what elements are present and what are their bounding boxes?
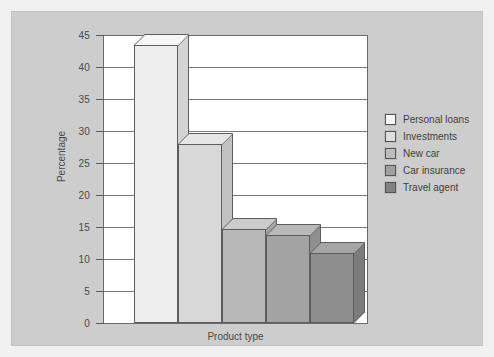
legend-swatch-icon	[385, 114, 396, 125]
legend-swatch-icon	[385, 182, 396, 193]
y-axis: 051015202530354045	[95, 35, 104, 325]
legend-item-label: Personal loans	[403, 114, 469, 125]
x-axis-title: Product type	[103, 331, 368, 342]
y-axis-tick-label: 0	[50, 318, 90, 329]
bar-front-face	[310, 253, 354, 323]
y-axis-tick	[96, 99, 104, 100]
y-axis-tick	[96, 195, 104, 196]
bar-front-face	[222, 229, 266, 323]
legend-item-label: Travel agent	[403, 182, 458, 193]
bar-front-face	[178, 144, 222, 323]
bar-personal-loans	[134, 34, 178, 323]
bar-travel-agent	[310, 242, 354, 323]
y-axis-tick	[96, 259, 104, 260]
y-axis-tick-label: 40	[50, 62, 90, 73]
y-axis-tick-label: 5	[50, 286, 90, 297]
bar-front-face	[134, 45, 178, 323]
y-axis-tick-label: 15	[50, 222, 90, 233]
y-axis-tick	[96, 291, 104, 292]
legend-item-label: Car insurance	[403, 165, 465, 176]
y-axis-tick	[96, 163, 104, 164]
chart-figure: 051015202530354045 Percentage Product ty…	[0, 0, 494, 357]
legend-item: New car	[385, 145, 469, 162]
y-axis-tick	[96, 35, 104, 36]
y-axis-tick-label: 10	[50, 254, 90, 265]
legend-item: Investments	[385, 128, 469, 145]
plot-area	[103, 35, 368, 324]
legend-swatch-icon	[385, 148, 396, 159]
y-axis-tick	[96, 67, 104, 68]
legend-item-label: Investments	[403, 131, 457, 142]
legend-item: Car insurance	[385, 162, 469, 179]
bar-side-face	[354, 242, 365, 323]
y-axis-tick	[96, 323, 104, 324]
y-axis-title: Percentage	[56, 97, 67, 217]
y-axis-tick-label: 45	[50, 30, 90, 41]
legend-swatch-icon	[385, 131, 396, 142]
legend-swatch-icon	[385, 165, 396, 176]
legend-item: Personal loans	[385, 111, 469, 128]
bar-new-car	[222, 218, 266, 323]
legend-item: Travel agent	[385, 179, 469, 196]
chart-panel: 051015202530354045 Percentage Product ty…	[11, 11, 483, 346]
y-axis-tick	[96, 227, 104, 228]
legend-item-label: New car	[403, 148, 440, 159]
bar-car-insurance	[266, 224, 310, 323]
y-axis-tick	[96, 131, 104, 132]
bar-front-face	[266, 235, 310, 323]
legend: Personal loansInvestmentsNew carCar insu…	[385, 111, 469, 196]
bar-investments	[178, 133, 222, 323]
